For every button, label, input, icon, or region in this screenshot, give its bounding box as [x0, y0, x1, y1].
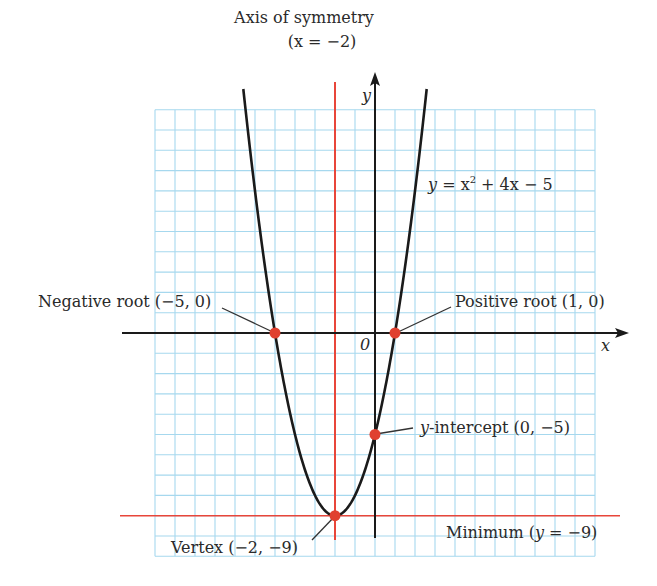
axis-of-symmetry-label-line2: (x = −2): [288, 32, 357, 51]
quadratic-graph-figure: Axis of symmetry (x = −2) y x 0 y = x2 +…: [0, 0, 657, 586]
leader-negative-root: [222, 308, 275, 333]
leader-lines: [222, 307, 451, 540]
equation-tail: + 4x − 5: [476, 175, 553, 194]
minimum-pre: Minimum (: [446, 523, 535, 542]
axis-of-symmetry-label-line1: Axis of symmetry: [233, 8, 374, 27]
vertex-label: Vertex (−2, −9): [170, 538, 298, 557]
leader-positive-root: [396, 307, 451, 333]
point-vertex: [330, 510, 341, 521]
point-positive-root: [390, 328, 401, 339]
negative-root-label: Negative root (−5, 0): [38, 292, 211, 311]
equation-part: = x: [437, 175, 470, 194]
minimum-label: Minimum (y = −9): [446, 523, 597, 542]
positive-root-label: Positive root (1, 0): [455, 292, 605, 311]
graph-canvas: Axis of symmetry (x = −2) y x 0 y = x2 +…: [0, 0, 657, 586]
point-negative-root: [270, 328, 281, 339]
origin-label: 0: [360, 335, 370, 354]
y-axis-label: y: [361, 86, 372, 105]
equation-label: y = x2 + 4x − 5: [427, 174, 553, 194]
y-intercept-label: y-intercept (0, −5): [419, 418, 570, 437]
y-intercept-rest: -intercept (0, −5): [429, 418, 570, 437]
x-axis-label: x: [601, 336, 610, 355]
minimum-post: = −9): [544, 523, 597, 542]
point-y-intercept: [370, 429, 381, 440]
